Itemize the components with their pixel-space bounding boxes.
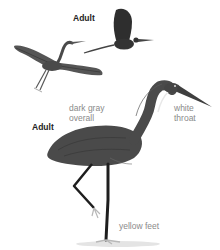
throat-color-label: white throat xyxy=(174,104,196,124)
flying-heron-wings-spread xyxy=(14,41,103,92)
standing-adult-heading: Adult xyxy=(32,123,54,133)
flight-adult-heading: Adult xyxy=(73,14,95,24)
body-color-label: dark gray overall xyxy=(69,104,104,124)
body-color-line-2: overall xyxy=(69,114,104,124)
throat-color-line-2: throat xyxy=(174,114,196,124)
feet-color-label: yellow feet xyxy=(119,222,159,232)
